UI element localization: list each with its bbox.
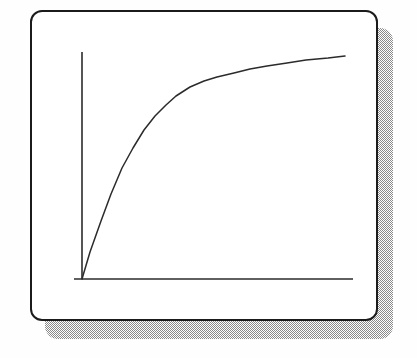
figure-root <box>0 0 417 358</box>
rounded-card-panel <box>30 10 378 321</box>
